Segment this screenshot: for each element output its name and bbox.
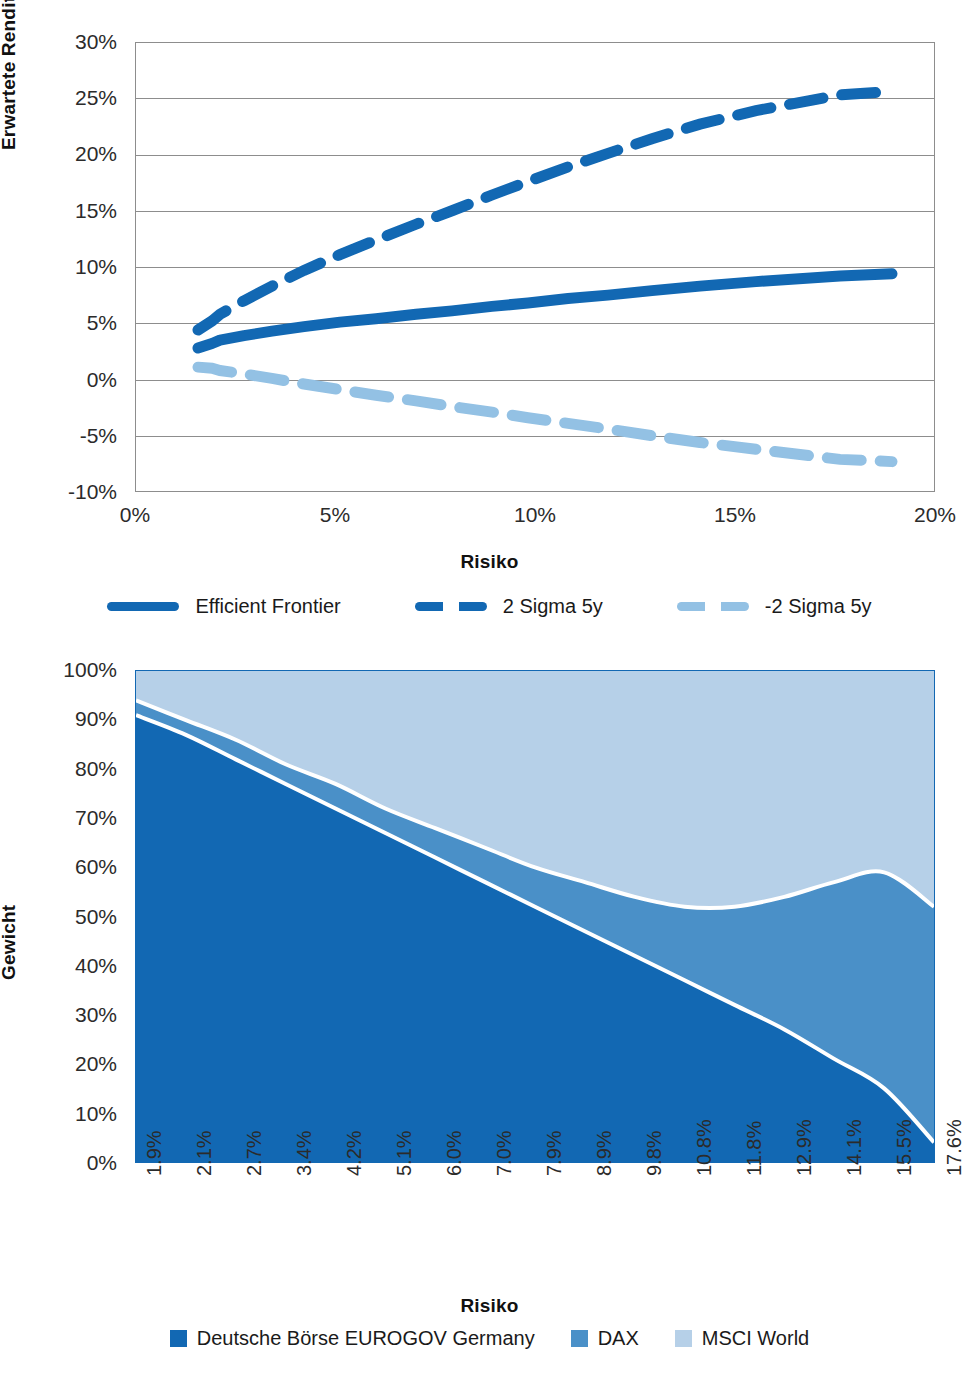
chart2-y-tick: 70% [0, 806, 117, 830]
chart1-y-tick: 30% [0, 30, 117, 54]
chart2-y-tick: 100% [0, 658, 117, 682]
chart1-x-axis-title: Risiko [0, 551, 979, 573]
chart2-x-tick: 15.5% [893, 1119, 916, 1176]
series-2-sigma-5y [198, 92, 892, 331]
chart1-y-axis-title: Erwartete Rendite [0, 0, 20, 150]
chart2-y-tick: 80% [0, 757, 117, 781]
chart2-x-tick: 10.8% [693, 1119, 716, 1176]
legend-swatch-eurogov [170, 1330, 187, 1347]
chart2-x-tick: 7.9% [543, 1130, 566, 1176]
legend-label: Efficient Frontier [195, 595, 340, 618]
legend-item-eurogov[interactable]: Deutsche Börse EUROGOV Germany [170, 1327, 535, 1350]
chart2-x-tick: 9.8% [643, 1130, 666, 1176]
legend-swatch-solid-line [107, 602, 179, 611]
chart2-x-tick: 17.6% [943, 1119, 966, 1176]
chart2-y-tick: 30% [0, 1003, 117, 1027]
chart2-plot-area [135, 670, 935, 1163]
legend-item-efficient-frontier[interactable]: Efficient Frontier [107, 595, 340, 618]
chart2-y-tick: 20% [0, 1052, 117, 1076]
chart2-x-tick: 1.9% [143, 1130, 166, 1176]
chart1-x-tick: 20% [914, 503, 956, 527]
chart1-x-tick: 0% [120, 503, 150, 527]
chart2-y-tick: 10% [0, 1102, 117, 1126]
chart2-x-tick: 3.4% [293, 1130, 316, 1176]
series-minus-2-sigma-5y [198, 367, 892, 462]
efficient-frontier-chart: Erwartete Rendite 30% 25% 20% 15% 10% 5%… [0, 0, 979, 660]
chart1-y-tick: 20% [0, 142, 117, 166]
chart2-legend: Deutsche Börse EUROGOV Germany DAX MSCI … [0, 1327, 979, 1350]
chart2-x-tick: 2.7% [243, 1130, 266, 1176]
chart2-x-tick: 8.9% [593, 1130, 616, 1176]
chart2-x-axis-title: Risiko [0, 1295, 979, 1317]
legend-swatch-dax [571, 1330, 588, 1347]
chart1-y-tick: 0% [0, 368, 117, 392]
chart2-x-tick: 7.0% [493, 1130, 516, 1176]
chart1-x-tick: 5% [320, 503, 350, 527]
legend-label: -2 Sigma 5y [765, 595, 872, 618]
chart2-x-tick: 6.0% [443, 1130, 466, 1176]
legend-item-minus-2-sigma-5y[interactable]: -2 Sigma 5y [677, 595, 872, 618]
chart1-legend: Efficient Frontier 2 Sigma 5y -2 Sigma 5… [0, 595, 979, 618]
legend-swatch-msci-world [675, 1330, 692, 1347]
chart1-x-tick: 15% [714, 503, 756, 527]
chart1-plot-area [135, 42, 935, 492]
portfolio-weights-chart: Gewicht 100% 90% 80% 70% 60% 50% 40% 30%… [0, 660, 979, 1382]
legend-label: MSCI World [702, 1327, 809, 1350]
legend-swatch-dashed-light-line [677, 602, 749, 611]
chart2-x-tick: 5.1% [393, 1130, 416, 1176]
chart1-y-tick: -10% [0, 480, 117, 504]
legend-item-dax[interactable]: DAX [571, 1327, 639, 1350]
chart2-x-tick: 4.2% [343, 1130, 366, 1176]
chart1-series-layer [136, 42, 936, 492]
chart2-x-tick: 11.8% [743, 1121, 766, 1176]
legend-item-2-sigma-5y[interactable]: 2 Sigma 5y [415, 595, 603, 618]
chart1-y-tick: 10% [0, 255, 117, 279]
legend-item-msci-world[interactable]: MSCI World [675, 1327, 809, 1350]
chart1-y-tick: 5% [0, 311, 117, 335]
legend-label: DAX [598, 1327, 639, 1350]
chart1-y-tick: 15% [0, 199, 117, 223]
chart2-x-tick: 2.1% [193, 1130, 216, 1176]
chart2-y-tick: 60% [0, 855, 117, 879]
legend-swatch-dashed-line [415, 602, 487, 611]
series-efficient-frontier [198, 274, 892, 348]
chart2-y-tick: 0% [0, 1151, 117, 1175]
chart1-y-tick: 25% [0, 86, 117, 110]
chart2-x-tick: 12.9% [793, 1119, 816, 1176]
chart2-y-tick: 50% [0, 905, 117, 929]
legend-label: 2 Sigma 5y [503, 595, 603, 618]
chart1-x-tick: 10% [514, 503, 556, 527]
chart2-y-tick: 90% [0, 707, 117, 731]
chart1-y-tick: -5% [0, 424, 117, 448]
legend-label: Deutsche Börse EUROGOV Germany [197, 1327, 535, 1350]
chart2-area-layer [136, 671, 934, 1162]
chart2-x-tick: 14.1% [843, 1119, 866, 1176]
chart2-y-tick: 40% [0, 954, 117, 978]
